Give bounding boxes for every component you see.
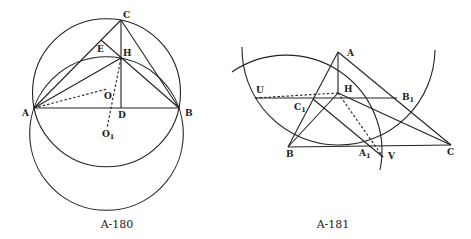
label-c1: C1 xyxy=(294,102,306,114)
label-b: B xyxy=(185,108,193,118)
label-d: D xyxy=(118,110,126,120)
label-a: A xyxy=(346,48,355,58)
label-b1: B1 xyxy=(402,92,414,104)
label-a1: A1 xyxy=(358,148,371,160)
label-b: B xyxy=(286,149,294,159)
figure-a181: A H U C1 B1 B A1 V C A-181 xyxy=(232,47,454,231)
segment-hc xyxy=(338,93,451,145)
label-e: E xyxy=(97,44,104,54)
figure-a180: C E H O A D B O1 A-180 xyxy=(21,10,193,231)
label-u: U xyxy=(256,85,264,95)
label-h: H xyxy=(344,84,353,94)
label-v: V xyxy=(387,151,396,161)
label-c: C xyxy=(447,147,454,157)
dashed-uh xyxy=(255,93,338,98)
geometry-figures: C E H O A D B O1 A-180 A H U C1 B1 B A1 … xyxy=(0,0,471,239)
label-c: C xyxy=(123,10,130,20)
label-o1: O1 xyxy=(102,129,114,141)
caption-a181: A-181 xyxy=(316,218,350,231)
caption-a180: A-180 xyxy=(100,218,134,231)
label-o: O xyxy=(104,91,112,101)
label-h: H xyxy=(123,48,132,58)
segment-c1v xyxy=(313,99,383,157)
dashed-ao xyxy=(34,89,107,108)
label-a: A xyxy=(21,108,30,118)
